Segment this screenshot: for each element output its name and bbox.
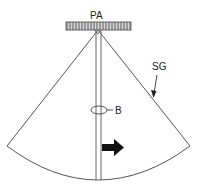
sg-pointer-arrow	[151, 75, 157, 98]
sector-outline	[7, 30, 190, 180]
beam-marker-b	[91, 106, 113, 114]
central-beam	[96, 31, 101, 180]
label-sg: SG	[152, 62, 166, 72]
probe-array	[66, 22, 131, 30]
label-pa: PA	[90, 11, 103, 21]
sector-diagram	[0, 0, 201, 190]
direction-arrow-icon	[102, 139, 124, 156]
diagram-canvas: PA SG B	[0, 0, 201, 190]
label-b: B	[115, 106, 122, 116]
